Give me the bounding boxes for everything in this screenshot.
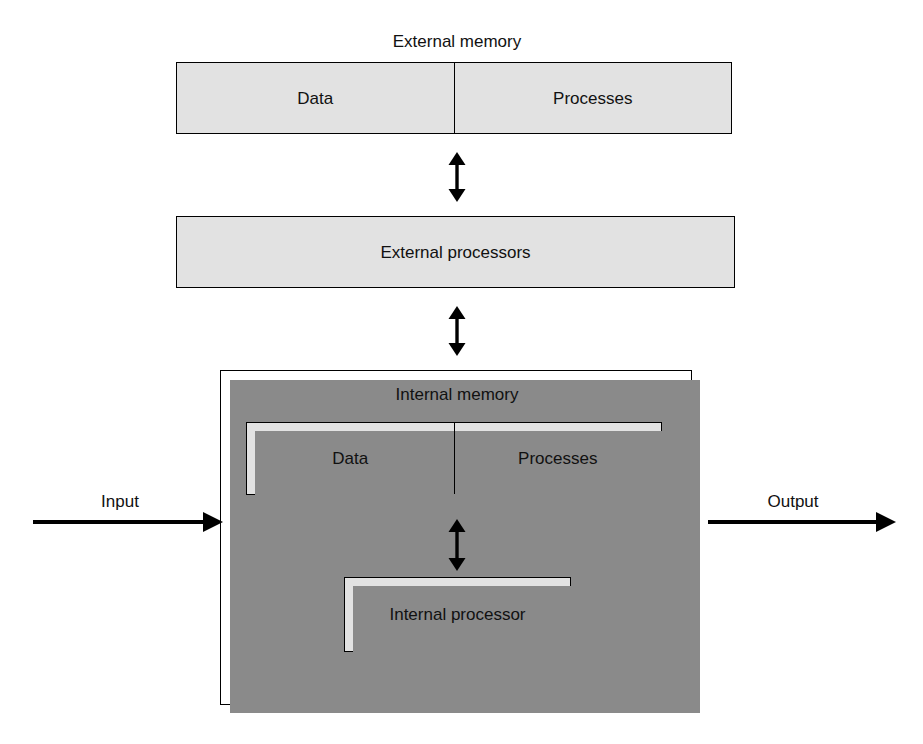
internal-memory-data-label: Data xyxy=(332,450,368,467)
memory-to-processors-arrow xyxy=(443,152,471,202)
external-processors-label: External processors xyxy=(380,244,530,261)
internal-processor-box: Internal processor xyxy=(344,577,571,652)
external-memory-data-label: Data xyxy=(297,90,333,107)
internal-memory-caption: Internal memory xyxy=(396,386,519,403)
external-memory-box: Data Processes xyxy=(176,62,732,134)
input-arrow xyxy=(33,509,223,535)
internal-memory-to-processor-arrow xyxy=(443,519,471,571)
external-processors-box: External processors xyxy=(176,216,735,288)
internal-memory-processes-cell: Processes xyxy=(454,423,662,494)
external-memory-data-cell: Data xyxy=(177,63,454,133)
internal-memory-processes-label: Processes xyxy=(518,450,597,467)
external-memory-processes-label: Processes xyxy=(553,90,632,107)
internal-processor-label: Internal processor xyxy=(389,606,525,623)
internal-memory-data-cell: Data xyxy=(247,423,454,494)
internal-memory-box: Data Processes xyxy=(246,422,662,495)
output-arrow xyxy=(708,509,896,535)
processors-to-system-arrow xyxy=(443,306,471,356)
external-memory-caption: External memory xyxy=(393,33,521,50)
input-label: Input xyxy=(101,493,139,510)
output-label: Output xyxy=(767,493,818,510)
external-memory-processes-cell: Processes xyxy=(454,63,732,133)
architecture-diagram: External memory Data Processes External … xyxy=(0,0,923,744)
